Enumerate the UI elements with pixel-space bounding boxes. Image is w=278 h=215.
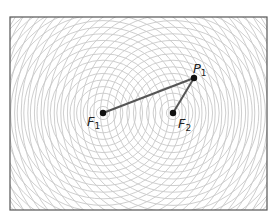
wave-ring — [0, 0, 278, 215]
wave-ring — [0, 0, 278, 215]
wave-ring — [0, 0, 278, 215]
wave-ring — [0, 0, 278, 215]
wave-ring — [0, 0, 278, 215]
wave-ring — [0, 0, 278, 215]
wave-ring — [0, 0, 278, 215]
wave-ring — [0, 0, 278, 215]
label-f2: F2 — [178, 116, 191, 133]
wave-ring — [0, 0, 278, 215]
wave-ring — [0, 0, 278, 215]
wave-ring — [0, 0, 278, 215]
wave-ring — [0, 0, 278, 215]
wave-ring — [0, 0, 278, 215]
wave-ring — [0, 0, 278, 215]
wave-ring — [0, 0, 278, 215]
wave-ring — [0, 0, 278, 215]
wave-ring — [0, 0, 278, 215]
wave-ring — [0, 0, 278, 215]
wave-ring — [0, 0, 278, 215]
point-f2 — [170, 110, 176, 116]
label-f1: F1 — [87, 114, 100, 131]
wave-ring — [0, 0, 278, 215]
wave-ring — [0, 0, 278, 215]
wave-ring — [0, 0, 278, 215]
point-f1 — [100, 110, 106, 116]
wave-ring — [0, 0, 278, 215]
wave-rings — [0, 0, 278, 215]
wave-ring — [0, 0, 278, 215]
wave-ring — [0, 0, 278, 215]
interference-diagram: F1F2P1 — [0, 0, 278, 215]
label-p1: P1 — [193, 61, 207, 78]
wave-ring — [0, 0, 278, 215]
wave-ring — [0, 0, 278, 215]
wave-ring — [0, 0, 278, 215]
